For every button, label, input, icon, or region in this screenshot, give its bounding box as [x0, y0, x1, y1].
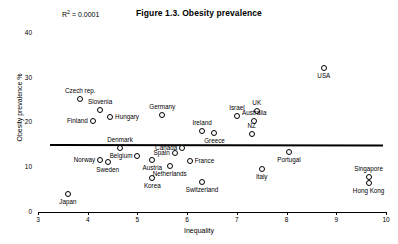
data-point: [90, 118, 96, 124]
data-point-label: Norway: [74, 156, 95, 162]
y-tick-label: 10: [12, 163, 32, 170]
data-point-label: Greece: [204, 138, 225, 144]
data-point-label: Hungary: [115, 114, 139, 120]
data-point-label: Japan: [59, 199, 76, 205]
data-point: [366, 174, 372, 180]
y-axis-title: Obesity prevalence %: [16, 53, 23, 163]
data-point-label: Sweden: [96, 167, 119, 173]
y-tick-label: 0: [12, 208, 32, 215]
data-point-label: Korea: [144, 183, 161, 189]
x-tick: [386, 212, 387, 215]
x-axis-title: Inequality: [0, 227, 398, 234]
x-tick: [137, 212, 138, 215]
x-tick-label: 4: [80, 216, 96, 223]
data-point: [107, 114, 113, 120]
data-point: [149, 157, 155, 163]
data-point-label: Singapore: [354, 165, 383, 171]
data-point-label: Belgium: [110, 153, 133, 159]
data-point-label: Hong Kong: [353, 188, 385, 194]
data-point-label: USA: [317, 73, 330, 79]
data-point-label: Denmark: [107, 137, 133, 143]
data-point-label: Spain: [154, 150, 170, 156]
x-tick: [336, 212, 337, 215]
x-tick: [88, 212, 89, 215]
y-tick-label: 40: [12, 29, 32, 36]
data-point-label: Czech rep.: [65, 87, 95, 93]
x-tick-label: 3: [30, 216, 46, 223]
r-squared-annotation: R2 = 0.0001: [62, 9, 99, 18]
x-tick-label: 5: [129, 216, 145, 223]
x-tick: [237, 212, 238, 215]
data-point-label: Italy: [256, 174, 268, 180]
x-axis-line: [38, 212, 386, 213]
data-point-label: Australia: [242, 110, 267, 116]
data-point-label: Ireland: [192, 120, 211, 126]
data-point-label: Portugal: [277, 157, 300, 163]
data-point: [179, 145, 185, 151]
x-tick-label: 8: [279, 216, 295, 223]
data-point-label: NZ: [248, 123, 256, 129]
data-point: [286, 149, 292, 155]
x-tick-label: 7: [229, 216, 245, 223]
chart-title: Figure 1.3. Obesity prevalence: [0, 8, 398, 18]
x-tick: [287, 212, 288, 215]
data-point: [321, 65, 327, 71]
data-point-label: Slovenia: [88, 99, 112, 105]
x-tick: [38, 212, 39, 215]
obesity-prevalence-figure: Figure 1.3. Obesity prevalence R2 = 0.00…: [0, 0, 398, 244]
data-point: [259, 166, 265, 172]
data-point-label: Switzerland: [186, 187, 219, 193]
data-point: [97, 157, 103, 163]
x-tick-label: 6: [179, 216, 195, 223]
data-point-label: UK: [252, 100, 261, 106]
data-point-label: Canada: [155, 144, 177, 150]
data-point-label: Germany: [149, 104, 175, 110]
x-tick: [187, 212, 188, 215]
data-point-label: Netherlands: [153, 171, 187, 177]
data-point: [366, 180, 372, 186]
data-point: [77, 96, 83, 102]
data-point-label: France: [195, 158, 215, 164]
data-point: [199, 179, 205, 185]
x-tick-label: 9: [328, 216, 344, 223]
x-tick-label: 10: [378, 216, 394, 223]
data-point-label: Finland: [67, 118, 88, 124]
data-point: [234, 113, 240, 119]
data-point: [105, 159, 111, 165]
data-point: [249, 131, 255, 137]
data-point: [65, 191, 71, 197]
